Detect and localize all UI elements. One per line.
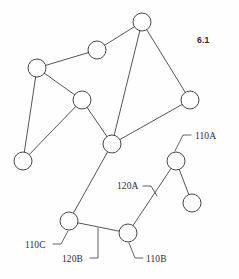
callout-leader-line	[175, 135, 191, 151]
edges-layer	[24, 27, 188, 231]
callout-leader-line	[90, 228, 98, 258]
graph-node	[119, 224, 137, 242]
graph-edge	[87, 107, 107, 136]
graph-edge	[73, 152, 107, 213]
graph-edge	[120, 104, 182, 139]
graph-edge	[114, 31, 140, 136]
graph-node	[183, 194, 201, 212]
graph-edge	[29, 106, 75, 154]
graph-node	[73, 91, 91, 109]
graph-node	[28, 59, 46, 77]
graph-node	[60, 212, 78, 230]
graph-node	[103, 135, 121, 153]
figure-container: 110A120A110C120B110B 6.1	[0, 0, 239, 279]
graph-edge	[147, 30, 186, 93]
callout-leader-line	[143, 186, 157, 196]
graph-edge	[44, 73, 74, 95]
reference-label-120b: 120B	[62, 254, 83, 264]
graph-edge	[46, 53, 89, 66]
graph-node	[88, 41, 106, 59]
nodes-layer	[14, 13, 201, 242]
graph-node	[133, 13, 151, 31]
graph-edge	[133, 168, 171, 225]
reference-label-110c: 110C	[25, 240, 46, 250]
graph-node	[167, 152, 185, 170]
callout-leader-line	[53, 231, 68, 244]
graph-edge	[78, 223, 119, 231]
callout-leader-line	[129, 243, 143, 258]
graph-node	[14, 152, 32, 170]
figure-number-label: 6.1	[197, 35, 209, 45]
reference-label-120a: 120A	[117, 181, 139, 191]
reference-label-110b: 110B	[146, 254, 167, 264]
reference-label-110a: 110A	[195, 131, 216, 141]
graph-edge	[179, 169, 189, 194]
graph-node	[181, 91, 199, 109]
graph-edge	[24, 77, 35, 152]
graph-edge	[105, 27, 135, 46]
